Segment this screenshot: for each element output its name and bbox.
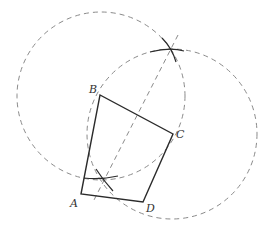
construction-diagram: A B C D <box>0 0 266 229</box>
label-d: D <box>145 202 155 215</box>
perpendicular-bisector-line <box>94 35 178 200</box>
label-a: A <box>69 197 78 210</box>
label-b: B <box>88 83 97 96</box>
lower-intersection-arc-2 <box>96 169 113 191</box>
upper-intersection-arc-1 <box>150 49 184 52</box>
label-c: C <box>176 128 185 141</box>
quadrilateral-abcd <box>81 95 173 202</box>
